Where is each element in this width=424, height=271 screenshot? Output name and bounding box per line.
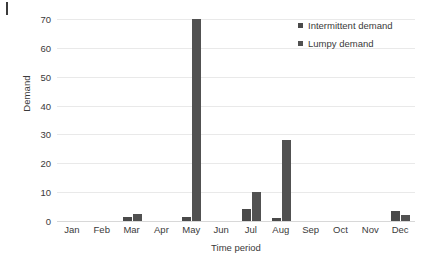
x-axis-title: Time period — [57, 242, 415, 253]
x-axis-tick-labels: JanFebMarAprMayJunJulAugSepOctNovDec — [57, 224, 415, 240]
x-axis-tick-label: Jan — [64, 224, 79, 235]
legend-swatch-icon — [298, 41, 303, 46]
page-corner-tick-artifact — [6, 2, 8, 15]
bar-group — [240, 19, 262, 221]
x-axis-tick-label: Oct — [333, 224, 348, 235]
bar — [192, 19, 201, 221]
x-axis-tick-label: Apr — [154, 224, 169, 235]
demand-bar-chart-figure: Demand 010203040506070 JanFebMarAprMayJu… — [0, 0, 424, 271]
x-axis-tick-label: Sep — [302, 224, 319, 235]
x-axis-tick-label: Jul — [245, 224, 257, 235]
bar-group — [61, 19, 83, 221]
legend-item-label: Intermittent demand — [308, 20, 393, 31]
bar — [401, 215, 410, 221]
bar-group — [121, 19, 143, 221]
chart-legend: Intermittent demandLumpy demand — [298, 20, 422, 56]
bar — [282, 140, 291, 221]
bar — [272, 218, 281, 221]
legend-item[interactable]: Lumpy demand — [298, 38, 422, 49]
legend-item-label: Lumpy demand — [308, 38, 373, 49]
y-axis-tick-label: 40 — [21, 100, 51, 111]
x-axis-tick-label: Nov — [362, 224, 379, 235]
legend-swatch-icon — [298, 23, 303, 28]
x-axis-tick-label: Aug — [272, 224, 289, 235]
bar-group — [180, 19, 202, 221]
bar — [133, 214, 142, 221]
bar — [242, 209, 251, 221]
bar — [391, 211, 400, 221]
y-axis-tick-label: 20 — [21, 158, 51, 169]
y-axis-tick-label: 0 — [21, 216, 51, 227]
bar — [252, 192, 261, 221]
x-axis-tick-label: May — [182, 224, 200, 235]
y-axis-tick-label: 70 — [21, 14, 51, 25]
x-axis-tick-label: Dec — [392, 224, 409, 235]
x-axis-tick-label: Mar — [123, 224, 139, 235]
gridline — [57, 221, 415, 222]
bar-group — [270, 19, 292, 221]
bar — [123, 217, 132, 221]
bar-group — [210, 19, 232, 221]
y-axis-tick-label: 60 — [21, 42, 51, 53]
bar-group — [91, 19, 113, 221]
bar-group — [150, 19, 172, 221]
x-axis-tick-label: Feb — [94, 224, 110, 235]
y-axis-tick-label: 50 — [21, 71, 51, 82]
y-axis-title: Demand — [21, 54, 32, 134]
legend-item[interactable]: Intermittent demand — [298, 20, 422, 31]
y-axis-tick-label: 10 — [21, 187, 51, 198]
y-axis-tick-label: 30 — [21, 129, 51, 140]
x-axis-tick-label: Jun — [213, 224, 228, 235]
bar — [182, 217, 191, 221]
